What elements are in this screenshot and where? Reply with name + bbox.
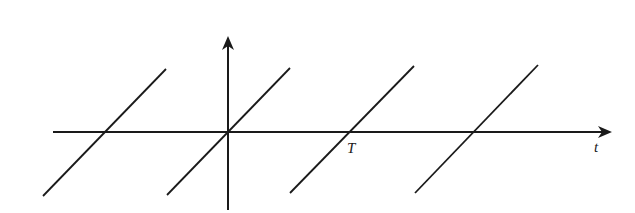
sawtooth-ramp-4 — [415, 65, 538, 193]
sawtooth-diagram — [0, 0, 635, 213]
time-axis-label: t — [594, 140, 598, 155]
period-label: T — [347, 141, 355, 156]
sawtooth-ramp-3 — [290, 66, 414, 193]
sawtooth-ramps — [43, 65, 538, 196]
